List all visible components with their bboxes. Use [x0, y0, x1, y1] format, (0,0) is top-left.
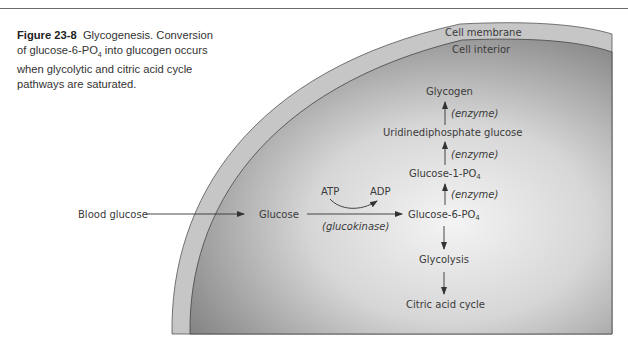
node-blood-glucose: Blood glucose: [78, 209, 148, 220]
node-glucose: Glucose: [259, 209, 299, 220]
node-adp: ADP: [370, 186, 391, 197]
label-enzyme-3: (enzyme): [451, 108, 498, 119]
node-glycolysis: Glycolysis: [419, 254, 469, 265]
node-citric-acid-cycle: Citric acid cycle: [406, 299, 485, 310]
node-glycogen: Glycogen: [426, 86, 473, 97]
label-cell-interior: Cell interior: [452, 44, 511, 55]
cell-interior: [190, 39, 612, 334]
label-glucokinase: (glucokinase): [322, 221, 389, 232]
node-udp-glucose: Uridinediphosphate glucose: [383, 127, 522, 138]
glycogenesis-diagram: Cell membrane Cell interior Blood glucos…: [0, 0, 628, 353]
label-enzyme-2: (enzyme): [451, 149, 498, 160]
label-enzyme-1: (enzyme): [451, 189, 498, 200]
node-atp: ATP: [321, 186, 339, 197]
label-cell-membrane: Cell membrane: [445, 27, 522, 38]
